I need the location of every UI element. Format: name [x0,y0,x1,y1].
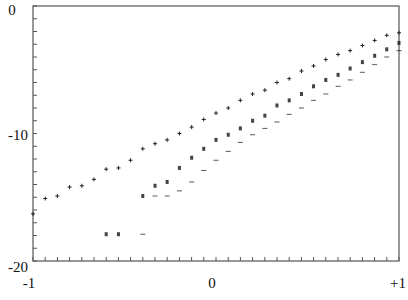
x-tick-label-center: 0 [208,275,216,291]
box-marker [190,156,193,160]
box-marker [324,78,327,82]
y-tick-label-top: 0 [8,2,16,18]
box-marker [178,166,181,170]
box-marker [227,133,230,137]
series-middle [105,41,401,236]
box-marker [337,73,340,77]
box-marker [300,92,303,96]
series-upper [31,31,401,216]
data-markers [31,31,402,236]
box-marker [251,119,254,123]
y-tick-label-mid: -10 [8,127,28,143]
box-marker [117,232,120,236]
box-marker [385,47,388,51]
box-marker [361,60,364,64]
box-marker [105,232,108,236]
tick-labels: 0 -10 -20 -1 0 +1 [8,2,406,291]
box-marker [202,147,205,151]
box-marker [373,54,376,58]
scatter-chart: 0 -10 -20 -1 0 +1 [0,0,408,300]
box-marker [263,114,266,118]
series-lower [140,51,401,235]
box-marker [349,66,352,70]
y-tick-label-bottom: -20 [8,259,28,275]
box-marker [275,103,278,107]
x-tick-label-left: -1 [23,275,36,291]
plot-frame [33,6,399,261]
box-marker [288,98,291,102]
box-marker [215,138,218,142]
axis-ticks [33,6,399,261]
box-marker [239,126,242,130]
box-marker [166,180,169,184]
plot-border [33,6,399,261]
box-marker [312,84,315,88]
box-marker [154,184,157,188]
box-marker [398,41,401,45]
x-tick-label-right: +1 [390,275,406,291]
box-marker [141,194,144,198]
